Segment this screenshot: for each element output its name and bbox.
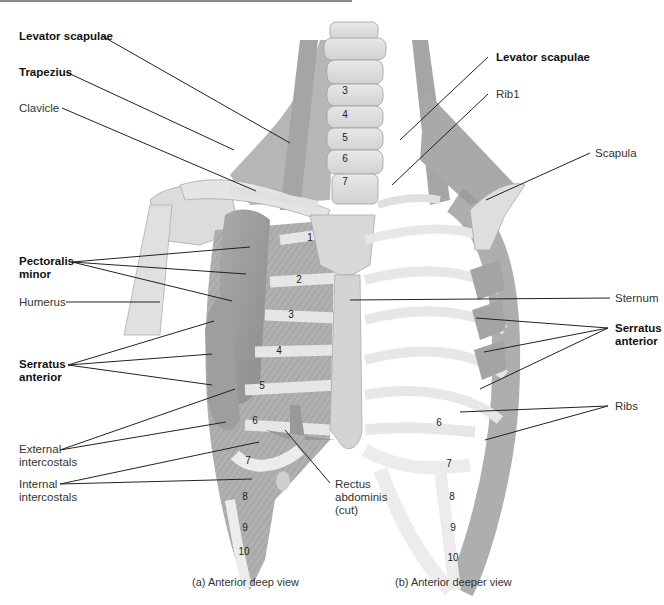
- right-ribcage: [365, 184, 525, 590]
- rib-number: 8: [238, 491, 252, 502]
- label-line: abdominis: [335, 491, 387, 504]
- label-serratus-anterior-left: Serratus anterior: [19, 358, 66, 384]
- label-rectus-abdominis: Rectus abdominis (cut): [335, 478, 387, 517]
- cervical-spine: [324, 22, 386, 204]
- vertebra-number: 4: [338, 109, 352, 120]
- label-levator-scapulae-right: Levator scapulae: [496, 51, 590, 64]
- rib-number: 1: [303, 232, 317, 243]
- rib-number: 10: [446, 552, 460, 563]
- label-serratus-anterior-right: Serratus anterior: [615, 322, 662, 348]
- vertebra-number: 6: [338, 153, 352, 164]
- rib-number: 2: [292, 274, 306, 285]
- label-external-intercostals: External intercostals: [19, 443, 77, 469]
- rib-number: 8: [445, 491, 459, 502]
- label-line: Serratus: [19, 358, 66, 371]
- label-internal-intercostals: Internal intercostals: [19, 478, 77, 504]
- rib-number: 3: [284, 309, 298, 320]
- label-rib1: Rib1: [496, 88, 520, 101]
- rib-number: 5: [255, 380, 269, 391]
- label-line: intercostals: [19, 491, 77, 504]
- rib-number: 7: [442, 458, 456, 469]
- label-line: Internal: [19, 478, 77, 491]
- rib-number: 10: [237, 546, 251, 557]
- label-line: Serratus: [615, 322, 662, 335]
- rib-number: 9: [446, 522, 460, 533]
- label-pectoralis-minor: Pectoralis minor: [19, 255, 74, 281]
- label-line: Rectus: [335, 478, 387, 491]
- rib-number: 7: [241, 455, 255, 466]
- caption-view-b: (b) Anterior deeper view: [395, 576, 512, 588]
- label-scapula: Scapula: [595, 147, 637, 160]
- label-line: (cut): [335, 504, 387, 517]
- rib-number: 6: [432, 417, 446, 428]
- label-line: intercostals: [19, 456, 77, 469]
- label-line: minor: [19, 268, 74, 281]
- label-line: Pectoralis: [19, 255, 74, 268]
- label-trapezius: Trapezius: [19, 66, 72, 79]
- vertebra-number: 5: [338, 132, 352, 143]
- rib-number: 6: [248, 415, 262, 426]
- thorax-illustration: [0, 0, 664, 605]
- label-line: External: [19, 443, 77, 456]
- label-clavicle: Clavicle: [19, 102, 59, 115]
- label-line: anterior: [19, 371, 66, 384]
- left-ribcage: [205, 210, 338, 590]
- rib-number: 9: [238, 522, 252, 533]
- label-humerus: Humerus: [19, 296, 66, 309]
- label-levator-scapulae-left: Levator scapulae: [19, 30, 113, 43]
- label-sternum: Sternum: [615, 292, 658, 305]
- caption-view-a: (a) Anterior deep view: [192, 576, 299, 588]
- vertebra-number: 7: [338, 176, 352, 187]
- rib-number: 4: [272, 345, 286, 356]
- label-ribs: Ribs: [615, 400, 638, 413]
- label-line: anterior: [615, 335, 662, 348]
- vertebra-number: 3: [338, 85, 352, 96]
